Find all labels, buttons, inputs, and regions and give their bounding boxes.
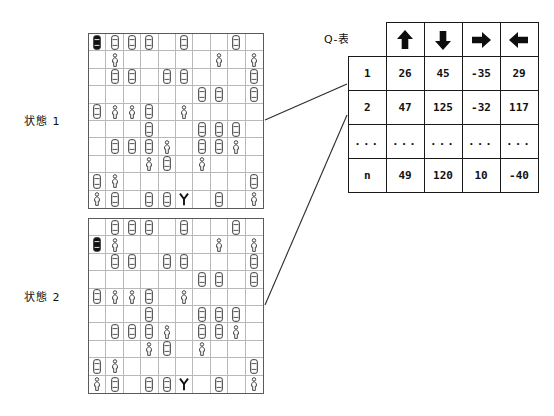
pedestrian-icon — [128, 105, 136, 119]
car-icon — [198, 87, 206, 102]
pedestrian-icon — [93, 377, 101, 391]
grid-cell — [246, 69, 263, 86]
grid-cell — [228, 138, 245, 155]
pedestrian-icon — [128, 290, 136, 304]
car-icon — [180, 35, 188, 50]
grid-cell — [176, 191, 193, 208]
car-icon — [128, 324, 136, 339]
grid-cell — [246, 191, 263, 208]
car-icon — [111, 139, 119, 154]
grid-cell — [228, 34, 245, 51]
grid-cell — [228, 289, 245, 306]
grid-cell — [124, 51, 141, 68]
tree-icon — [179, 377, 189, 391]
q-table-header-row — [349, 23, 539, 57]
grid-cell — [106, 191, 123, 208]
q-table-cell: 29 — [500, 57, 538, 91]
pedestrian-icon — [250, 53, 258, 67]
state-1-grid — [88, 33, 264, 209]
grid-cell — [176, 219, 193, 236]
grid-cell — [228, 341, 245, 358]
car-icon — [180, 254, 188, 269]
grid-cell — [211, 219, 228, 236]
grid-cell — [193, 254, 210, 271]
car-icon — [250, 272, 258, 287]
grid-cell — [89, 341, 106, 358]
grid-cell — [193, 138, 210, 155]
q-table-row-label: ... — [349, 125, 387, 159]
grid-cell — [141, 219, 158, 236]
grid-cell — [159, 341, 176, 358]
car-icon — [215, 87, 223, 102]
grid-cell — [106, 86, 123, 103]
q-table-header-down-arrow-icon — [424, 23, 462, 57]
car-icon — [180, 69, 188, 84]
car-icon — [163, 192, 171, 207]
grid-cell — [176, 271, 193, 288]
grid-cell — [228, 104, 245, 121]
grid-cell — [246, 173, 263, 190]
grid-cell — [124, 289, 141, 306]
q-table: 12645-3529247125-32117...............n49… — [348, 22, 539, 193]
grid-cell — [89, 376, 106, 393]
car-icon — [215, 324, 223, 339]
q-table-row: 12645-3529 — [349, 57, 539, 91]
grid-cell — [141, 271, 158, 288]
grid-cell — [246, 376, 263, 393]
grid-cell — [228, 191, 245, 208]
car-icon — [163, 377, 171, 392]
grid-cell — [228, 254, 245, 271]
pedestrian-icon — [111, 105, 119, 119]
grid-cell — [124, 69, 141, 86]
grid-cell — [228, 236, 245, 253]
grid-cell — [193, 69, 210, 86]
grid-cell — [246, 323, 263, 340]
grid-cell — [89, 323, 106, 340]
grid-cell — [176, 341, 193, 358]
grid-cell — [141, 173, 158, 190]
car-icon — [215, 272, 223, 287]
car-icon — [163, 156, 171, 171]
grid-cell — [246, 156, 263, 173]
grid-cell — [124, 173, 141, 190]
grid-cell — [228, 121, 245, 138]
pedestrian-icon — [111, 174, 119, 188]
grid-cell — [176, 51, 193, 68]
grid-cell — [89, 51, 106, 68]
ego-car-icon — [93, 35, 101, 50]
grid-cell — [106, 104, 123, 121]
grid-cell — [193, 86, 210, 103]
grid-cell — [141, 358, 158, 375]
grid-cell — [89, 69, 106, 86]
grid-cell — [176, 254, 193, 271]
car-icon — [111, 220, 119, 235]
grid-cell — [176, 173, 193, 190]
grid-cell — [141, 289, 158, 306]
q-table-header-up-arrow-icon — [386, 23, 424, 57]
ego-car-icon — [93, 237, 101, 252]
pedestrian-icon — [145, 157, 153, 171]
grid-cell — [246, 289, 263, 306]
grid-cell — [246, 138, 263, 155]
grid-cell — [124, 323, 141, 340]
grid-cell — [106, 69, 123, 86]
car-icon — [250, 87, 258, 102]
tree-icon — [179, 192, 189, 206]
q-table-cell: -35 — [462, 57, 500, 91]
grid-cell — [246, 219, 263, 236]
car-icon — [111, 69, 119, 84]
grid-cell — [193, 289, 210, 306]
car-icon — [250, 359, 258, 374]
pedestrian-icon — [198, 157, 206, 171]
grid-cell — [228, 51, 245, 68]
pedestrian-icon — [250, 377, 258, 391]
car-icon — [250, 174, 258, 189]
grid-cell — [141, 236, 158, 253]
q-table-cell: -40 — [500, 159, 538, 193]
pedestrian-icon — [215, 53, 223, 67]
grid-cell — [159, 69, 176, 86]
grid-cell — [211, 341, 228, 358]
grid-cell — [141, 121, 158, 138]
q-table-row-label: 2 — [349, 91, 387, 125]
grid-cell — [211, 86, 228, 103]
